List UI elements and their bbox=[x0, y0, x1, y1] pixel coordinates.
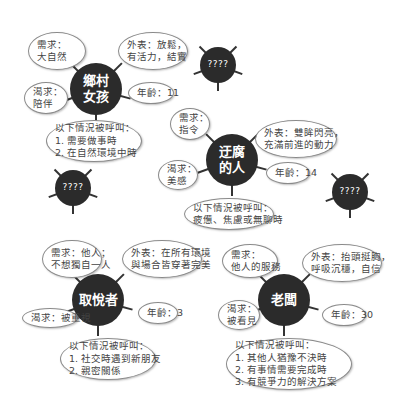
called-when-line: 1. 需要做事時 bbox=[55, 135, 133, 147]
called-when-line: 以下情況被呼叫： bbox=[55, 122, 133, 134]
unknown-hub: ???? bbox=[332, 174, 368, 210]
desire-label: 渴求： bbox=[227, 303, 251, 315]
called-when-line: 以下情況被呼叫： bbox=[235, 339, 343, 351]
called-when-line: 2. 有事情需要完成時 bbox=[235, 364, 343, 376]
need-label: 需求：他人； bbox=[51, 247, 93, 259]
need-label: 需求： bbox=[179, 112, 201, 124]
desire-bubble: 渴求：被重視 bbox=[22, 308, 78, 328]
appearance-line: 與場合皆穿著完美 bbox=[131, 259, 193, 271]
hub-name: 鄉村 bbox=[83, 73, 109, 88]
desire-bubble: 渴求： 美感 bbox=[158, 160, 198, 190]
need-value: 指令 bbox=[179, 124, 201, 136]
called-when-line: 以下情況被呼叫： bbox=[193, 202, 265, 214]
unknown-label: ???? bbox=[207, 59, 228, 70]
appearance-bubble: 外表：放鬆， 有活力，結實 bbox=[118, 32, 188, 70]
character-diagram: 需求： 大自然 外表：放鬆， 有活力，結實 鄉村女孩 渴求： 陪伴 年齡：11 … bbox=[0, 0, 400, 416]
appearance-line: 有活力，結實 bbox=[127, 51, 179, 63]
unknown-label: ???? bbox=[339, 186, 360, 197]
unknown-hub: ???? bbox=[55, 170, 91, 206]
appearance-line: 外表：在所有環境 bbox=[131, 247, 193, 259]
appearance-line: 外表：放鬆， bbox=[127, 39, 179, 51]
called-when-line: 1. 其他人猶豫不決時 bbox=[235, 352, 343, 364]
desire-label: 渴求： bbox=[167, 163, 189, 175]
age-value: 年齡：3 bbox=[147, 307, 169, 319]
called-when-line: 3. 有競爭力的解決方案 bbox=[235, 376, 343, 388]
appearance-line: 外表：抬頭挺胸， bbox=[311, 251, 373, 263]
need-bubble: 需求： 指令 bbox=[170, 108, 210, 140]
hub-name: 迂腐 bbox=[219, 144, 245, 159]
called-when-line: 2. 親密關係 bbox=[69, 365, 147, 377]
hub-pedantic-person: 迂腐的人 bbox=[206, 134, 258, 186]
unknown-hub: ???? bbox=[200, 47, 236, 83]
appearance-line: 外表：雙眸閃亮， bbox=[264, 127, 328, 139]
age-value: 年齡：30 bbox=[331, 309, 357, 321]
need-value: 大自然 bbox=[37, 51, 77, 63]
called-when-bubble: 以下情況被呼叫： 1. 社交時遇到新朋友 2. 親密關係 bbox=[60, 338, 156, 380]
age-bubble: 年齡：14 bbox=[266, 162, 310, 184]
called-when-line: 疲憊、焦慮或無聊時 bbox=[193, 214, 265, 226]
appearance-line: 充滿前進的動力 bbox=[264, 139, 328, 151]
need-bubble: 需求：他人； 不想獨自一人 bbox=[42, 240, 102, 278]
called-when-bubble: 以下情況被呼叫： 1. 其他人猶豫不決時 2. 有事情需要完成時 3. 有競爭力… bbox=[226, 338, 352, 390]
appearance-bubble: 外表：雙眸閃亮， 充滿前進的動力 bbox=[255, 120, 337, 158]
age-bubble: 年齡：11 bbox=[128, 82, 174, 104]
desire-bubble: 渴求： 被看見 bbox=[218, 300, 260, 330]
hub-name: 老闆 bbox=[271, 292, 297, 308]
desire-label: 渴求： bbox=[33, 86, 59, 98]
hub-country-girl: 鄉村女孩 bbox=[70, 63, 122, 115]
age-bubble: 年齡：30 bbox=[322, 304, 366, 326]
desire-value: 美感 bbox=[167, 175, 189, 187]
called-when-line: 1. 社交時遇到新朋友 bbox=[69, 353, 147, 365]
hub-name: 取悅者 bbox=[79, 292, 118, 308]
need-value: 不想獨自一人 bbox=[51, 259, 93, 271]
hub-boss: 老闆 bbox=[258, 274, 310, 326]
appearance-bubble: 外表：在所有環境 與場合皆穿著完美 bbox=[122, 240, 202, 278]
desire-value: 渴求：被重視 bbox=[31, 312, 69, 324]
called-when-line: 2. 在自然環境中時 bbox=[55, 147, 133, 159]
need-bubble: 需求： 他人的服務 bbox=[222, 244, 278, 278]
desire-value: 被看見 bbox=[227, 315, 251, 327]
need-value: 他人的服務 bbox=[231, 261, 269, 273]
need-label: 需求： bbox=[37, 39, 77, 51]
age-value: 年齡：14 bbox=[275, 167, 301, 179]
desire-bubble: 渴求： 陪伴 bbox=[24, 82, 68, 114]
desire-value: 陪伴 bbox=[33, 98, 59, 110]
unknown-label: ???? bbox=[62, 182, 83, 193]
need-bubble: 需求： 大自然 bbox=[28, 32, 86, 70]
called-when-bubble: 以下情況被呼叫： 1. 需要做事時 2. 在自然環境中時 bbox=[46, 120, 142, 162]
called-when-bubble: 以下情況被呼叫： 疲憊、焦慮或無聊時 bbox=[184, 198, 274, 230]
age-bubble: 年齡：3 bbox=[138, 302, 178, 324]
appearance-bubble: 外表：抬頭挺胸， 呼吸沉穩，自信 bbox=[302, 244, 382, 282]
hub-name: 女孩 bbox=[83, 89, 109, 104]
appearance-line: 呼吸沉穩，自信 bbox=[311, 263, 373, 275]
age-value: 年齡：11 bbox=[137, 87, 165, 99]
need-label: 需求： bbox=[231, 249, 269, 261]
called-when-line: 以下情況被呼叫： bbox=[69, 340, 147, 352]
hub-name: 的人 bbox=[219, 160, 245, 175]
